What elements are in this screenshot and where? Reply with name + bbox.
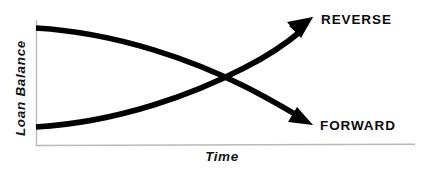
diagram-canvas: Loan Balance Time REVERSE FORWARD bbox=[0, 0, 428, 176]
x-axis-line bbox=[36, 144, 415, 145]
y-axis-label: Loan Balance bbox=[6, 0, 34, 176]
forward-curve bbox=[36, 28, 300, 117]
y-axis-label-wrap: Loan Balance bbox=[6, 0, 34, 176]
forward-curve-group bbox=[36, 28, 313, 125]
reverse-curve bbox=[36, 31, 301, 127]
x-axis-label: Time bbox=[36, 149, 408, 164]
series-label-forward: FORWARD bbox=[320, 119, 396, 133]
series-label-reverse: REVERSE bbox=[321, 13, 392, 27]
